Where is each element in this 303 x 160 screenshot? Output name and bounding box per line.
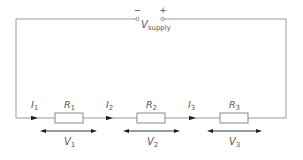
resistor-label: R2	[146, 99, 157, 112]
supply-label: Vsupply	[141, 19, 171, 32]
resistor-r2: R2	[137, 99, 165, 123]
plus-sign: +	[159, 5, 167, 15]
arrow-left-icon	[40, 129, 46, 133]
current-label: I2	[106, 99, 113, 112]
resistor-r1: R1	[55, 99, 83, 123]
arrow-left-icon	[207, 129, 213, 133]
minus-sign: −	[134, 5, 142, 15]
resistor-label: R3	[229, 99, 240, 112]
voltage-label: V3	[229, 136, 240, 149]
resistor-icon	[55, 113, 83, 123]
resistor-icon	[137, 113, 165, 123]
current-i2: I2	[106, 99, 113, 120]
voltage-label: V1	[64, 136, 75, 149]
wire-right-loop	[164, 19, 286, 118]
current-arrow-icon	[106, 116, 113, 120]
positive-terminal-icon	[161, 17, 164, 20]
current-i3: I3	[188, 99, 196, 120]
voltage-v3: V3	[207, 129, 262, 149]
current-label: I1	[31, 99, 38, 112]
current-arrow-icon	[31, 116, 38, 120]
negative-terminal-icon	[136, 17, 139, 20]
arrow-left-icon	[123, 129, 129, 133]
current-label: I3	[188, 99, 195, 112]
resistor-icon	[220, 113, 248, 123]
arrow-right-icon	[256, 129, 262, 133]
arrow-right-icon	[174, 129, 180, 133]
current-i1: I1	[31, 99, 38, 120]
arrow-right-icon	[91, 129, 97, 133]
resistor-r3: R3	[220, 99, 248, 123]
voltage-v1: V1	[40, 129, 97, 149]
voltage-v2: V2	[123, 129, 180, 149]
series-circuit-diagram: − + Vsupply R1 R2 R3 I1 I2	[0, 0, 303, 160]
current-arrow-icon	[189, 116, 196, 120]
resistor-label: R1	[64, 99, 75, 112]
voltage-label: V2	[147, 136, 158, 149]
